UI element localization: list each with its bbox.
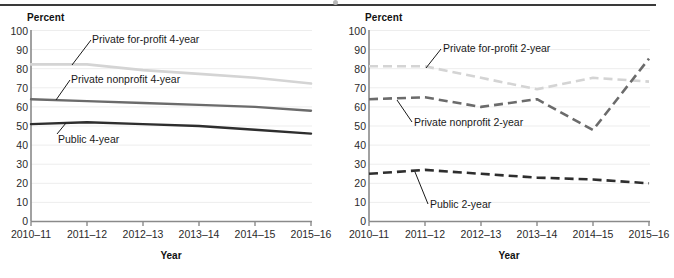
series-line-private-nonprofit-4-year <box>31 99 311 111</box>
series-line-private-for-profit-2-year <box>369 66 649 89</box>
x-axis-title: Year <box>111 250 231 261</box>
x-tick-2013-14: 2013–14 <box>509 228 565 240</box>
series-line-public-2-year <box>369 170 649 183</box>
x-axis-title: Year <box>449 250 569 261</box>
series-line-public-4-year <box>31 122 311 133</box>
series-label-public-2-year: Public 2-year <box>430 198 491 210</box>
series-label-private-nonprofit-2-year: Private nonprofit 2-year <box>414 116 523 128</box>
x-tick-2011-12: 2011–12 <box>59 228 115 240</box>
x-tick-2012-13: 2012–13 <box>453 228 509 240</box>
x-tick-2014-15: 2014–15 <box>565 228 621 240</box>
series-label-private-for-profit-2-year: Private for-profit 2-year <box>443 42 550 54</box>
x-tick-2010-11: 2010–11 <box>341 228 397 240</box>
chart-panel-two-year: Percent 100 90 80 70 60 50 40 30 20 10 0 <box>328 0 656 278</box>
series-label-private-for-profit-4-year: Private for-profit 4-year <box>92 33 199 45</box>
series-label-private-nonprofit-4-year: Private nonprofit 4-year <box>71 73 180 85</box>
x-tick-2010-11: 2010–11 <box>3 228 59 240</box>
x-tick-2015-16: 2015–16 <box>621 228 674 240</box>
chart-panel-four-year: Percent 100 90 80 70 60 50 40 30 20 10 0 <box>0 0 328 278</box>
x-tick-2014-15: 2014–15 <box>227 228 283 240</box>
series-label-public-4-year: Public 4-year <box>58 133 119 145</box>
x-tick-2012-13: 2012–13 <box>115 228 171 240</box>
x-tick-2011-12: 2011–12 <box>397 228 453 240</box>
x-tick-2013-14: 2013–14 <box>171 228 227 240</box>
